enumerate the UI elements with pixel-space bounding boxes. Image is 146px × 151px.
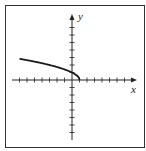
function-curve: [20, 59, 80, 80]
y-axis-arrow-icon: [70, 14, 75, 20]
function-graph: y x: [0, 0, 146, 151]
graph-frame: [6, 6, 145, 148]
x-axis-arrow-icon: [131, 78, 137, 83]
y-axis-label: y: [77, 10, 83, 22]
x-axis-label: x: [130, 83, 136, 95]
